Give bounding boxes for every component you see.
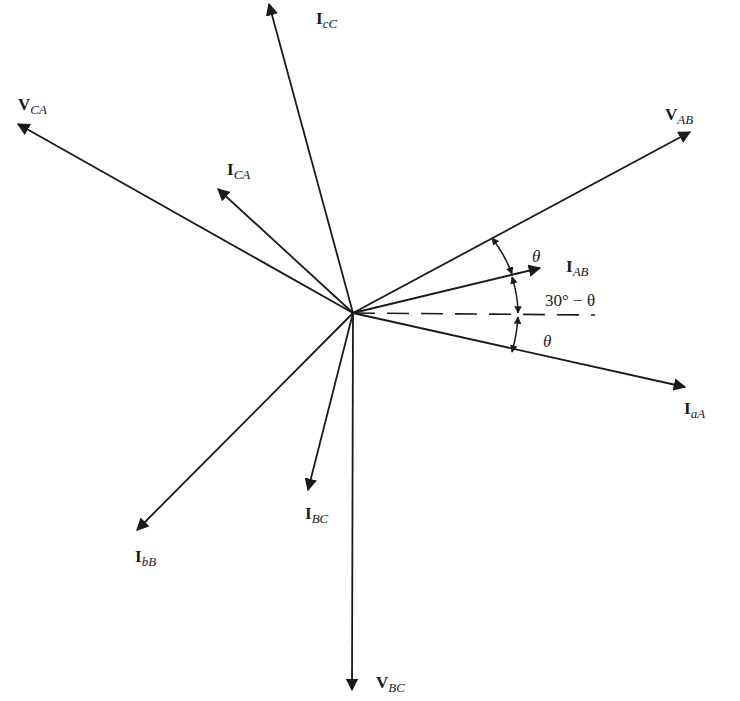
angle-arc-theta-upper	[492, 238, 512, 274]
phasor-diagram	[0, 0, 740, 701]
label-main-symbol: I	[684, 399, 691, 418]
label-subscript: CA	[234, 167, 251, 182]
label-main-symbol: V	[665, 105, 677, 124]
phasor-i-aa	[353, 313, 685, 387]
angle-annotation: 30° − θ	[545, 292, 595, 309]
phasor-v-bc	[352, 313, 353, 690]
label-i-cc: IcC	[316, 10, 337, 27]
label-main-symbol: V	[18, 95, 30, 114]
label-subscript: CA	[30, 102, 47, 117]
label-subscript: cC	[323, 16, 337, 31]
label-subscript: BC	[312, 511, 329, 526]
angle-annotation: θ	[543, 333, 551, 350]
phasor-i-bc	[308, 313, 353, 490]
label-subscript: AB	[677, 112, 693, 127]
phasor-i-bb	[137, 313, 353, 530]
label-main-symbol: I	[566, 257, 573, 276]
label-i-aa: IaA	[684, 400, 705, 417]
label-subscript: aA	[691, 406, 705, 421]
label-v-bc: VBC	[376, 674, 405, 691]
phasor-i-cc	[269, 4, 353, 313]
label-i-ab: IAB	[566, 258, 589, 275]
phasor-i-ca	[218, 189, 353, 313]
label-i-bb: IbB	[135, 548, 156, 565]
phasor-lines	[18, 4, 690, 690]
label-main-symbol: I	[316, 9, 323, 28]
angle-arc-theta-lower	[512, 317, 518, 352]
label-subscript: BC	[388, 680, 405, 695]
label-main-symbol: I	[135, 547, 142, 566]
label-v-ca: VCA	[18, 96, 47, 113]
angle-annotation: θ	[532, 248, 540, 265]
label-main-symbol: I	[227, 160, 234, 179]
label-i-ca: ICA	[227, 161, 250, 178]
phasor-i-ab	[353, 268, 540, 313]
label-main-symbol: V	[376, 673, 388, 692]
phasor-v-ca	[18, 124, 353, 313]
phasor-v-ab	[353, 132, 690, 313]
label-i-bc: IBC	[305, 505, 328, 522]
angle-arc-30-minus-theta	[512, 277, 518, 313]
label-subscript: AB	[573, 264, 589, 279]
label-v-ab: VAB	[665, 106, 693, 123]
reference-dashed-line	[353, 313, 595, 315]
label-main-symbol: I	[305, 504, 312, 523]
label-subscript: bB	[142, 554, 156, 569]
